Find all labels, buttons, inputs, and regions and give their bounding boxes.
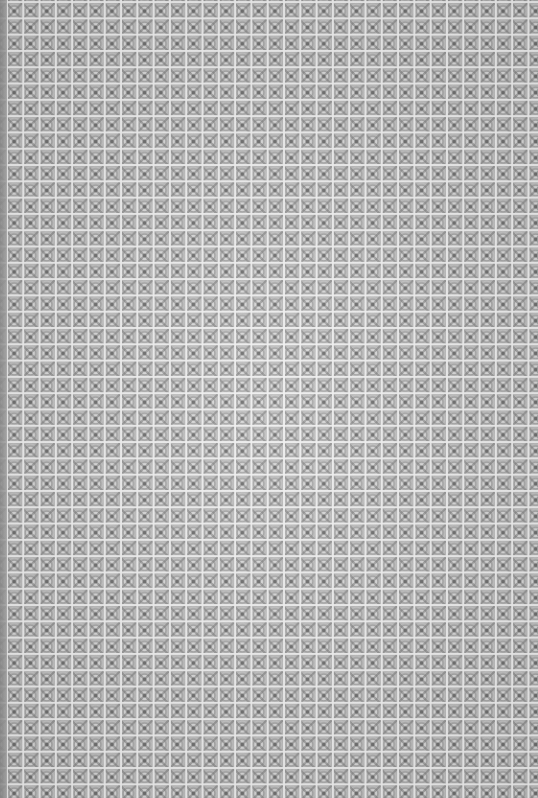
tiled-pattern-texture — [0, 0, 538, 798]
left-edge-shadow — [0, 0, 7, 798]
lighting-vignette — [0, 0, 538, 798]
